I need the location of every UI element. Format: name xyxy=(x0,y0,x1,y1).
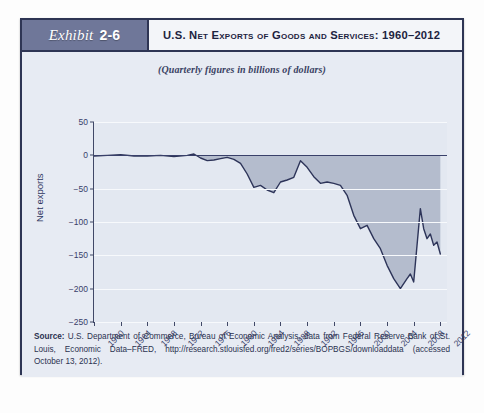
x-tick-mark xyxy=(201,322,202,326)
y-tick-mark xyxy=(90,188,94,189)
x-tick-mark xyxy=(254,322,255,326)
x-tick-mark xyxy=(121,322,122,326)
x-tick-mark xyxy=(94,322,95,326)
x-tick-mark xyxy=(414,322,415,326)
y-tick-mark xyxy=(90,222,94,223)
exhibit-badge: Exhibit 2-6 xyxy=(22,20,149,50)
y-gridline xyxy=(94,255,447,256)
x-tick-mark xyxy=(280,322,281,326)
source-label: Source: xyxy=(34,332,64,341)
y-tick-label: −100 xyxy=(69,217,88,227)
y-tick-label: −200 xyxy=(69,284,88,294)
exhibit-badge-number: 2-6 xyxy=(99,27,120,43)
y-tick-label: −250 xyxy=(69,317,88,327)
y-gridline xyxy=(94,122,447,123)
y-tick-mark xyxy=(90,255,94,256)
x-tick-mark xyxy=(440,322,441,326)
y-tick-label: 50 xyxy=(79,117,88,127)
x-tick-mark xyxy=(147,322,148,326)
plot-frame: 500−50−100−150−200−250196019641968197219… xyxy=(93,122,447,323)
x-tick-mark xyxy=(307,322,308,326)
x-tick-mark xyxy=(334,322,335,326)
screenshot-root: Exhibit 2-6 U.S. Net Exports of Goods an… xyxy=(0,0,484,413)
chart-area: Net exports 500−50−100−150−200−250196019… xyxy=(22,52,462,377)
y-tick-label: 0 xyxy=(83,150,88,160)
x-tick-mark xyxy=(227,322,228,326)
x-tick-mark xyxy=(387,322,388,326)
x-tick-mark xyxy=(360,322,361,326)
exhibit-header: Exhibit 2-6 U.S. Net Exports of Goods an… xyxy=(22,20,462,52)
y-gridline xyxy=(94,289,447,290)
source-text: U.S. Department of Commerce, Bureau of E… xyxy=(34,332,450,366)
y-tick-label: −150 xyxy=(69,250,88,260)
y-tick-mark xyxy=(90,288,94,289)
exhibit-badge-word: Exhibit xyxy=(49,27,94,44)
y-tick-label: −50 xyxy=(74,184,88,194)
exhibit-body: (Quarterly figures in billions of dollar… xyxy=(22,52,462,377)
y-axis-label: Net exports xyxy=(34,173,45,222)
exhibit-title: U.S. Net Exports of Goods and Services: … xyxy=(149,20,462,50)
y-gridline xyxy=(94,222,447,223)
y-tick-mark xyxy=(90,122,94,123)
source-note: Source: U.S. Department of Commerce, Bur… xyxy=(34,331,450,369)
exhibit-card: Exhibit 2-6 U.S. Net Exports of Goods an… xyxy=(20,18,464,375)
x-tick-mark xyxy=(174,322,175,326)
y-gridline xyxy=(94,189,447,190)
zero-reference-line xyxy=(94,155,447,156)
x-tick-label: 2012 xyxy=(452,328,472,348)
